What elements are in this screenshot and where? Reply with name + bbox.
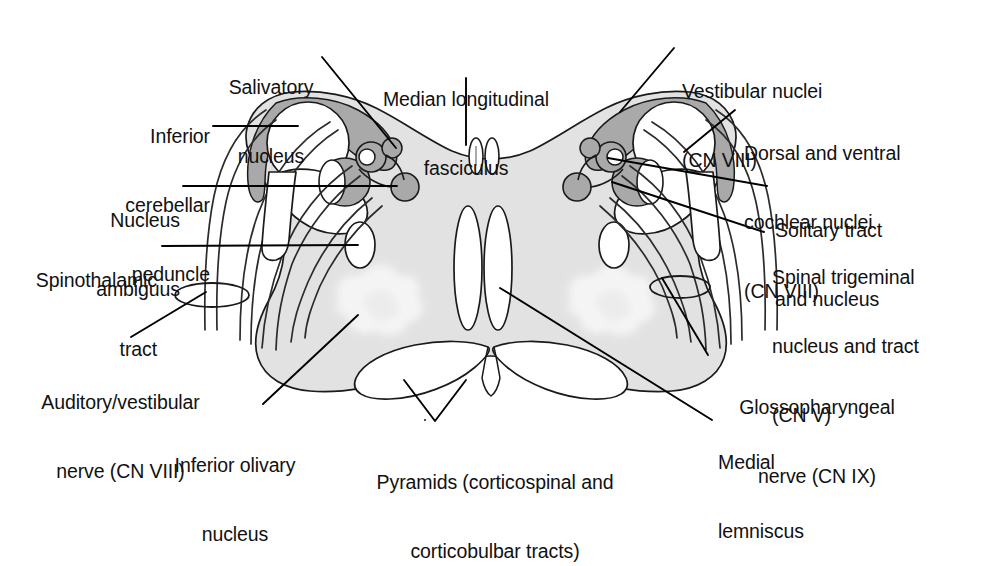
label-spinal-trig-line1: Spinal trigeminal bbox=[772, 266, 982, 289]
label-medial-lemniscus-line2: lemniscus bbox=[718, 520, 878, 543]
medial-lemniscus-right bbox=[484, 206, 512, 330]
label-salivatory-nucleus-line2: nucleus bbox=[206, 145, 336, 168]
label-mlf-line1: Median longitudinal bbox=[366, 88, 566, 111]
medial-lemniscus-left bbox=[454, 206, 482, 330]
label-medial-lemniscus: Medial lemniscus bbox=[718, 405, 878, 566]
label-ion-line2: nucleus bbox=[155, 523, 315, 546]
label-spinothalamic-line1: Spinothalamic bbox=[22, 269, 157, 292]
label-salivatory-nucleus-line1: Salivatory bbox=[206, 76, 336, 99]
label-ion-line1: Inferior olivary bbox=[155, 454, 315, 477]
right-solitary-tract bbox=[607, 149, 623, 165]
label-medial-lemniscus-line1: Medial bbox=[718, 451, 878, 474]
label-icp-line1: Inferior bbox=[75, 125, 210, 148]
label-pyramids-line2: corticobulbar tracts) bbox=[320, 540, 670, 563]
label-inferior-olivary-nucleus: Inferior olivary nucleus bbox=[155, 408, 315, 566]
label-cochlear-line1: Dorsal and ventral bbox=[744, 142, 974, 165]
label-pyramids-line1: Pyramids (corticospinal and bbox=[320, 471, 670, 494]
label-salivatory-nucleus: Salivatory nucleus bbox=[206, 30, 336, 191]
pyramid-decussation-notch bbox=[482, 378, 500, 396]
label-median-longitudinal-fasciculus: Median longitudinal fasciculus bbox=[366, 42, 566, 203]
right-salivatory-nucleus bbox=[580, 138, 600, 158]
label-pyramids: Pyramids (corticospinal and corticobulba… bbox=[320, 425, 670, 566]
right-nucleus-ambiguus bbox=[563, 173, 591, 201]
label-mlf-line2: fasciculus bbox=[366, 157, 566, 180]
